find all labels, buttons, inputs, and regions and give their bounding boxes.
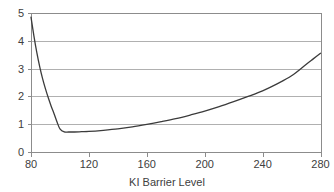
x-tick-label-120: 120 [80,158,98,170]
y-tick-label-4: 4 [18,35,24,47]
x-tick-label-240: 240 [253,158,271,170]
y-tick-label-0: 0 [18,146,24,158]
x-axis-title: KI Barrier Level [129,176,205,188]
y-tick-label-3: 3 [18,63,24,75]
x-tick-label-160: 160 [138,158,156,170]
y-tick-label-5: 5 [18,7,24,19]
line-chart: 80120160200240280 012345 KI Barrier Leve… [0,0,334,192]
x-tick-label-280: 280 [311,158,329,170]
y-tick-label-2: 2 [18,90,24,102]
x-tick-label-80: 80 [25,158,37,170]
x-tick-label-200: 200 [196,158,214,170]
chart-container: 80120160200240280 012345 KI Barrier Leve… [0,0,334,192]
chart-background [0,0,334,192]
y-tick-label-1: 1 [18,118,24,130]
